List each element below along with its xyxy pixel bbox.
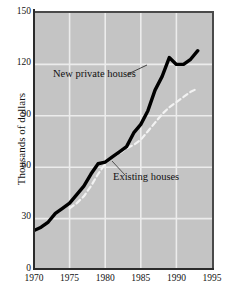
x-tick-1980: 1980 [88,272,122,284]
x-tick-1985: 1985 [124,272,158,284]
x-axis-line [33,268,214,270]
x-tick-1970: 1970 [17,272,51,284]
horizontal-gridlines [34,64,212,218]
plot-svg [34,13,212,270]
x-tick-1995: 1995 [195,272,228,284]
y-axis-title: Thousands of dollars [15,69,27,209]
annotation-existing-houses: Existing houses [113,171,179,182]
line-chart: New private houses Existing houses 150 1… [0,0,228,295]
vertical-gridlines [70,13,177,270]
annotation-new-private-houses: New private houses [53,68,136,79]
y-axis-line [33,9,35,270]
series-existing-houses [70,88,198,208]
x-axis-ticks: 1970 1975 1980 1985 1990 1995 [0,272,228,288]
y-tick-30: 30 [1,211,31,221]
x-tick-1975: 1975 [53,272,87,284]
y-tick-120: 120 [1,57,31,67]
y-tick-150: 150 [1,6,31,16]
plot-area: New private houses Existing houses [34,11,214,270]
x-tick-1990: 1990 [159,272,193,284]
